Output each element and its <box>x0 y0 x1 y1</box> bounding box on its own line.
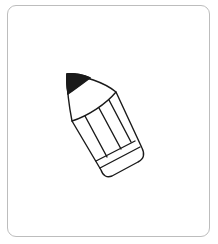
pencil-band-top <box>96 141 135 161</box>
pencil-icon <box>0 0 218 244</box>
pencil-stripe <box>99 108 121 149</box>
pencil-stripe <box>109 100 131 142</box>
pencil-stripe <box>85 116 107 157</box>
